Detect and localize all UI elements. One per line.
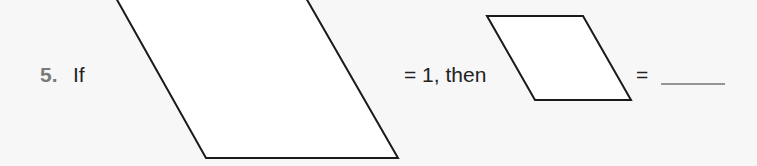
small-parallelogram — [487, 16, 631, 100]
figures — [0, 0, 757, 166]
large-parallelogram — [116, 0, 398, 158]
